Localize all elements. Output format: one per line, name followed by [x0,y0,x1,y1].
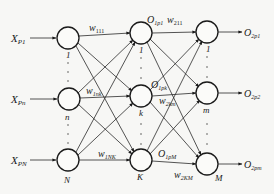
weight-label-211: w211 [167,14,182,26]
input-layer-nodes [57,27,80,171]
output-label-M: O2pm [244,159,262,171]
hidden-output-edges [147,32,202,164]
hidden-node-K [130,149,152,171]
hidden-index-K: K [136,172,144,182]
output-node-m [196,82,218,104]
input-label-1: XP1 [10,32,26,46]
hidden-node-k [130,85,152,107]
output-label-m: O2p2 [244,88,260,100]
output-node-M [196,153,218,175]
hidden-index-1: 1 [139,45,144,55]
output-label-1: O2p1 [244,27,260,39]
output-index-m: m [203,105,210,115]
weight-label-1NK: w1NK [98,148,117,160]
hidden-node-1 [130,22,152,44]
output-index-1: 1 [206,44,211,54]
output-arrows [218,32,242,164]
input-hidden-edges [76,33,135,160]
input-index-N: N [63,175,71,185]
input-label-n: XPn [10,93,26,107]
weight-label-2KM: w2KM [174,169,194,181]
weight-label-111: w111 [89,22,104,34]
input-index-n: n [65,112,70,122]
hidden-output-label-1: O1p1 [147,14,163,26]
input-arrows [30,38,57,160]
output-index-M: M [214,173,223,183]
input-node-n [58,88,80,110]
hidden-index-k: k [139,108,144,118]
weight-label-1nk: w1nk [86,85,102,97]
input-node-N [57,149,79,171]
output-node-1 [196,21,218,43]
input-index-1: 1 [66,50,71,60]
neural-network-diagram: XP1 XPn XPN 1 n N 1 k K 1 m M O1p1 O1pk … [0,0,274,194]
hidden-output-label-K: O1pM [158,148,177,160]
input-label-N: XPN [10,154,27,168]
input-node-1 [57,27,79,49]
